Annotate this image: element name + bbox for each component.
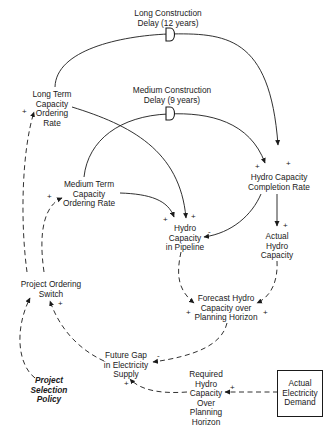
node-text: Horizon bbox=[189, 418, 223, 428]
delay-label-line: Delay (12 years) bbox=[134, 19, 201, 29]
node-text: Ordering Rate bbox=[63, 199, 115, 209]
node-hydro-capacity-in-pipeline: Hydro Capacity in Pipeline bbox=[166, 224, 204, 253]
node-required-hydro-capacity: Required Hydro Capacity Over Planning Ho… bbox=[189, 370, 223, 428]
node-text: Rate bbox=[32, 119, 71, 129]
polarity-plus: + bbox=[263, 309, 268, 317]
polarity-minus: - bbox=[157, 352, 160, 360]
polarity-plus: + bbox=[124, 380, 129, 388]
link-actual-to-forecast bbox=[257, 261, 277, 303]
link-pipeline-to-forecast bbox=[179, 252, 194, 303]
node-forecast-hydro-capacity: Forecast Hydro Capacity over Planning Ho… bbox=[194, 294, 257, 323]
delay-symbol-medium bbox=[166, 107, 175, 120]
polarity-minus: - bbox=[208, 228, 211, 236]
link-required-to-gap bbox=[130, 379, 187, 392]
long-construction-delay-label: Long Construction Delay (12 years) bbox=[134, 9, 201, 28]
node-text: Planning Horizon bbox=[194, 313, 257, 323]
node-hydro-capacity-completion-rate: Hydro Capacity Completion Rate bbox=[248, 173, 310, 192]
medium-construction-delay-label: Medium Construction Delay (9 years) bbox=[133, 86, 211, 105]
polarity-plus: + bbox=[283, 222, 288, 230]
delay-symbol-long bbox=[166, 28, 175, 41]
node-text: in Pipeline bbox=[166, 243, 204, 253]
link-switch-to-long bbox=[23, 112, 34, 272]
polarity-plus: + bbox=[58, 300, 63, 308]
node-actual-electricity-demand: Actual Electricity Demand bbox=[277, 370, 323, 417]
polarity-plus: + bbox=[230, 384, 235, 392]
node-project-selection-policy: Project Selection Policy bbox=[31, 376, 68, 405]
delay-label-line: Delay (9 years) bbox=[133, 96, 211, 106]
causal-links bbox=[0, 0, 336, 429]
link-medium-to-completion bbox=[84, 114, 265, 177]
node-text: Capacity bbox=[261, 251, 293, 261]
node-text: Switch bbox=[21, 290, 81, 300]
link-policy-to-switch bbox=[20, 298, 35, 378]
polarity-plus: + bbox=[22, 108, 27, 116]
polarity-plus: + bbox=[186, 309, 191, 317]
node-project-ordering-switch: Project Ordering Switch bbox=[21, 280, 81, 299]
polarity-plus: + bbox=[191, 213, 196, 221]
polarity-plus: + bbox=[255, 163, 260, 171]
node-long-term-capacity-ordering-rate: Long Term Capacity Ordering Rate bbox=[32, 90, 71, 128]
polarity-plus: + bbox=[286, 160, 291, 168]
node-future-gap-in-electricity-supply: Future Gap in Electricity Supply bbox=[104, 351, 148, 380]
polarity-plus: + bbox=[47, 193, 52, 201]
link-forecast-to-gap bbox=[153, 323, 227, 362]
node-medium-term-capacity-ordering-rate: Medium Term Capacity Ordering Rate bbox=[63, 180, 115, 209]
link-gap-to-switch bbox=[50, 301, 104, 361]
node-text: Demand bbox=[282, 398, 318, 408]
link-completion-to-pipeline bbox=[204, 194, 261, 237]
link-switch-to-medium bbox=[42, 198, 62, 272]
node-text: Policy bbox=[31, 395, 68, 405]
node-text: Completion Rate bbox=[248, 183, 310, 193]
polarity-plus: + bbox=[163, 216, 168, 224]
link-medium-to-pipeline bbox=[120, 193, 174, 217]
node-actual-hydro-capacity: Actual Hydro Capacity bbox=[261, 232, 293, 261]
